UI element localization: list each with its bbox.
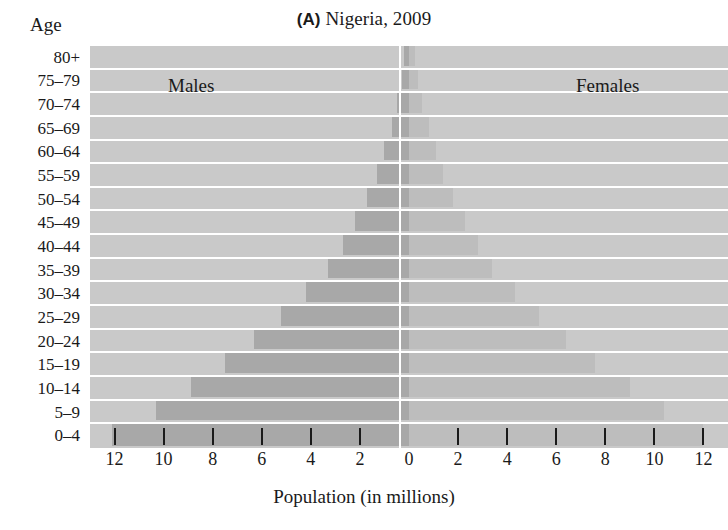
pyramid-row — [90, 46, 728, 70]
x-axis-tick-label: 2 — [355, 449, 364, 470]
female-bar — [409, 164, 443, 184]
x-axis-tick-label: 6 — [552, 449, 561, 470]
center-axis-line — [399, 46, 401, 448]
x-axis-title: Population (in millions) — [0, 486, 728, 508]
chart-title-text: Nigeria, 2009 — [325, 8, 431, 29]
pyramid-row — [90, 330, 728, 354]
pyramid-row — [90, 282, 728, 306]
x-axis-tick — [457, 428, 459, 445]
pyramid-row — [90, 259, 728, 283]
pyramid-row — [90, 164, 728, 188]
x-axis-tick — [212, 428, 214, 445]
male-bar — [225, 353, 409, 373]
female-bar — [409, 377, 630, 397]
female-bar — [409, 259, 492, 279]
chart-title: (A) Nigeria, 2009 — [0, 8, 728, 30]
x-axis-tick-label: 0 — [405, 449, 414, 470]
female-bar — [409, 188, 453, 208]
age-group-label: 50–54 — [38, 191, 81, 208]
pyramid-row — [90, 141, 728, 165]
pyramid-row — [90, 306, 728, 330]
x-axis-tick — [310, 428, 312, 445]
x-axis-tick-label: 8 — [208, 449, 217, 470]
age-group-label: 45–49 — [38, 214, 81, 231]
male-bar — [367, 188, 409, 208]
x-axis-tick-label: 12 — [106, 449, 124, 470]
x-axis-tick-label: 10 — [645, 449, 663, 470]
pyramid-row — [90, 188, 728, 212]
male-bar — [402, 70, 409, 90]
female-bar — [409, 70, 418, 90]
x-axis-tick — [114, 428, 116, 445]
age-group-label: 65–69 — [38, 120, 81, 137]
x-axis-tick-label: 4 — [503, 449, 512, 470]
x-axis-tick — [702, 428, 704, 445]
female-bar — [409, 211, 465, 231]
pyramid-row — [90, 353, 728, 377]
age-group-label: 70–74 — [38, 96, 81, 113]
females-series-label: Females — [576, 75, 639, 97]
age-group-label: 55–59 — [38, 167, 81, 184]
male-bar — [281, 306, 409, 326]
female-bar — [409, 93, 422, 113]
x-axis-tick — [261, 428, 263, 445]
pyramid-row — [90, 235, 728, 259]
age-group-label: 30–34 — [38, 285, 81, 302]
female-bar — [409, 353, 595, 373]
x-axis-tick-label: 12 — [694, 449, 712, 470]
male-bar — [384, 141, 409, 161]
female-bar — [409, 330, 566, 350]
males-series-label: Males — [168, 75, 214, 97]
age-group-labels: 80+75–7970–7465–6960–6455–5950–5445–4940… — [0, 46, 84, 448]
pyramid-row — [90, 401, 728, 425]
x-axis-tick-label: 8 — [601, 449, 610, 470]
x-axis-tick-label: 6 — [257, 449, 266, 470]
male-bar — [254, 330, 409, 350]
age-group-label: 75–79 — [38, 72, 81, 89]
x-axis-tick — [163, 428, 165, 445]
female-bar — [409, 401, 664, 421]
age-group-label: 20–24 — [38, 333, 81, 350]
x-axis-tick-label: 2 — [454, 449, 463, 470]
age-group-label: 0–4 — [55, 427, 81, 444]
male-bar — [156, 401, 409, 421]
male-bar — [191, 377, 409, 397]
age-group-label: 25–29 — [38, 309, 81, 326]
age-group-label: 35–39 — [38, 262, 81, 279]
pyramid-row — [90, 117, 728, 141]
age-group-label: 10–14 — [38, 380, 81, 397]
x-axis-tick — [653, 428, 655, 445]
age-group-label: 15–19 — [38, 356, 81, 373]
pyramid-row — [90, 377, 728, 401]
x-axis-tick-label: 10 — [155, 449, 173, 470]
x-axis-tick — [604, 428, 606, 445]
x-axis-tick — [359, 428, 361, 445]
age-group-label: 60–64 — [38, 143, 81, 160]
male-bar — [306, 282, 409, 302]
age-group-label: 5–9 — [55, 404, 81, 421]
female-bar — [409, 117, 429, 137]
plot-area — [90, 46, 728, 448]
panel-letter: (A) — [297, 10, 321, 29]
female-bar — [409, 46, 415, 66]
x-axis-ticks — [90, 428, 728, 448]
pyramid-row — [90, 211, 728, 235]
female-bar — [409, 282, 515, 302]
age-group-label: 40–44 — [38, 238, 81, 255]
x-axis-tick — [555, 428, 557, 445]
x-axis-tick-label: 4 — [306, 449, 315, 470]
female-bar — [409, 235, 478, 255]
female-bar — [409, 306, 539, 326]
male-bar — [377, 164, 409, 184]
x-axis-tick — [506, 428, 508, 445]
female-bar — [409, 141, 436, 161]
x-axis-tick-labels: 12108642024681012 — [0, 449, 728, 475]
population-pyramid-figure: Age (A) Nigeria, 2009 Males Females 80+7… — [0, 0, 728, 530]
age-group-label: 80+ — [53, 49, 80, 66]
male-bar — [328, 259, 409, 279]
